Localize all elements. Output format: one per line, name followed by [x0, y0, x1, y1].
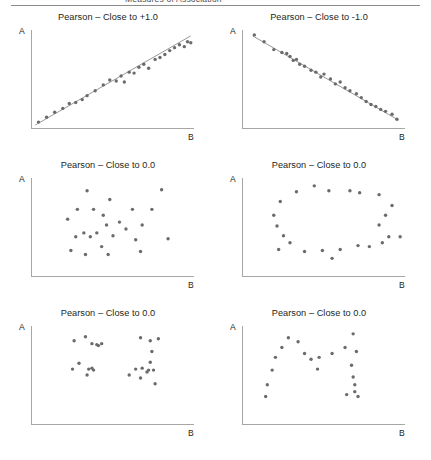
panel-pearson-zero-mshape: Pearson – Close to 0.0 A B: [219, 308, 419, 456]
panel-title: Pearson – Close to 0.0: [8, 160, 208, 170]
figure-page: Measures of Association Pearson – Close …: [0, 0, 431, 460]
plot-area: [32, 178, 194, 276]
header-divider: [11, 5, 420, 6]
y-axis-label: A: [19, 26, 25, 36]
panel-pearson-zero-random: Pearson – Close to 0.0 A B: [8, 160, 208, 308]
x-axis-label: B: [399, 280, 405, 290]
x-axis-label: B: [399, 428, 405, 438]
y-axis-label: A: [230, 322, 236, 332]
x-axis-label: B: [188, 132, 194, 142]
panel-title: Pearson – Close to 0.0: [219, 160, 419, 170]
panel-pearson-positive-one: Pearson – Close to +1.0 A B: [8, 12, 208, 160]
x-axis-line: [242, 276, 405, 277]
y-axis-label: A: [230, 174, 236, 184]
y-axis-label: A: [19, 322, 25, 332]
plot-area: [243, 178, 405, 276]
x-axis-label: B: [188, 280, 194, 290]
panel-title: Pearson – Close to +1.0: [8, 12, 208, 22]
y-axis-label: A: [19, 174, 25, 184]
x-axis-line: [242, 424, 405, 425]
x-axis-label: B: [188, 428, 194, 438]
plot-area: [243, 326, 405, 424]
panel-pearson-zero-ring: Pearson – Close to 0.0 A B: [219, 160, 419, 308]
x-axis-label: B: [399, 132, 405, 142]
x-axis-line: [31, 424, 194, 425]
panel-pearson-zero-clusters: Pearson – Close to 0.0 A B: [8, 308, 208, 456]
x-axis-line: [242, 128, 405, 129]
plot-area: [32, 30, 194, 128]
panel-title: Pearson – Close to 0.0: [8, 308, 208, 318]
panel-title: Pearson – Close to 0.0: [219, 308, 419, 318]
y-axis-label: A: [230, 26, 236, 36]
plot-area: [32, 326, 194, 424]
scatter-plot-grid: Pearson – Close to +1.0 A B Pearson – Cl…: [0, 8, 431, 460]
x-axis-line: [31, 128, 194, 129]
x-axis-line: [31, 276, 194, 277]
panel-title: Pearson – Close to -1.0: [219, 12, 419, 22]
plot-area: [243, 30, 405, 128]
panel-pearson-negative-one: Pearson – Close to -1.0 A B: [219, 12, 419, 160]
running-header-text: Measures of Association: [125, 0, 222, 4]
